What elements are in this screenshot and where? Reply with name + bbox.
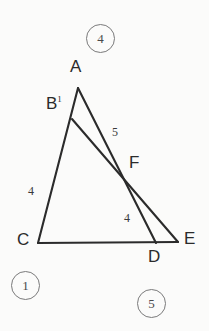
vertex-label-B: B1 [46, 95, 62, 112]
circled-tag-1-text: 1 [22, 278, 29, 294]
circled-tag-4-text: 4 [97, 31, 104, 47]
circled-tag-1: 1 [11, 271, 40, 300]
circled-tag-5-text: 5 [148, 296, 155, 312]
geometry-figure: A B1 C D E F 5 4 4 4 1 5 [0, 0, 209, 331]
vertex-label-A: A [70, 58, 81, 75]
vertex-label-B-text: B [46, 94, 57, 113]
vertex-label-E-text: E [184, 229, 195, 248]
vertex-label-D: D [148, 248, 160, 265]
vertex-label-C: C [17, 231, 29, 248]
segment-label-4-left: 4 [28, 185, 34, 197]
vertex-label-B-superscript: 1 [57, 94, 62, 104]
vertex-label-E: E [184, 230, 195, 247]
vertex-label-A-text: A [70, 57, 81, 76]
vertex-label-F-text: F [129, 153, 139, 172]
vertex-label-C-text: C [17, 230, 29, 249]
circled-tag-4: 4 [86, 24, 115, 53]
circled-tag-5: 5 [137, 289, 166, 318]
segment-label-5: 5 [112, 126, 118, 138]
segment-label-4-lower: 4 [124, 212, 130, 224]
vertex-label-F: F [129, 154, 139, 171]
vertex-label-D-text: D [148, 247, 160, 266]
segment-A-D [78, 88, 156, 243]
